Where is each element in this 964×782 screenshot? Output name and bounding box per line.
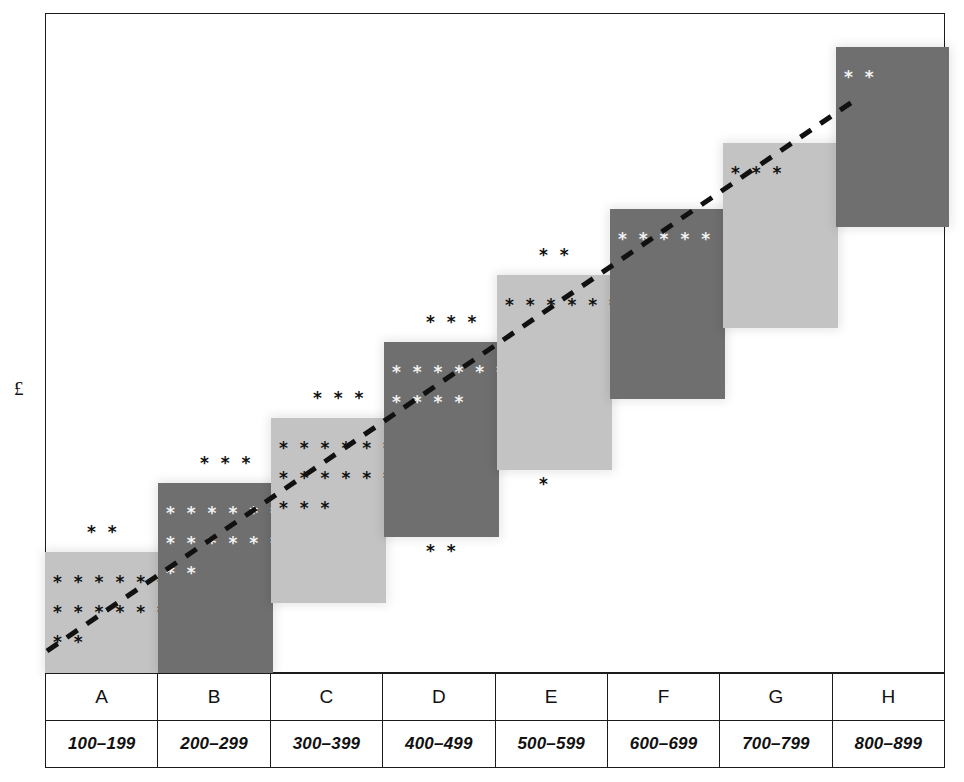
mark-row-below-d: * * xyxy=(426,543,459,560)
mark-row-d-2: * * * * xyxy=(392,394,466,411)
table-cell-letter-g: G xyxy=(720,674,832,721)
mark-row-a-3: * * xyxy=(53,634,86,651)
table-row-letters: ABCDEFGH xyxy=(46,674,945,721)
mark-row-g-1: * * * xyxy=(731,165,785,182)
table-cell-letter-d: D xyxy=(383,674,495,721)
table-cell-letter-c: C xyxy=(270,674,382,721)
table-cell-range-200-299: 200–299 xyxy=(158,721,270,768)
mark-row-above-c: * * * xyxy=(313,390,367,407)
table-cell-range-300-399: 300–399 xyxy=(270,721,382,768)
table-cell-range-100-199: 100–199 xyxy=(46,721,158,768)
table-row-ranges: 100–199200–299300–399400–499500–599600–6… xyxy=(46,721,945,768)
mark-row-above-e: * * xyxy=(539,247,572,264)
table-cell-range-700-799: 700–799 xyxy=(720,721,832,768)
mark-row-below-e: * xyxy=(539,476,551,493)
table-cell-range-400-499: 400–499 xyxy=(383,721,495,768)
table-cell-letter-e: E xyxy=(495,674,607,721)
table-cell-range-600-699: 600–699 xyxy=(607,721,719,768)
chart-canvas: £ * ** * * * * * * * * ** * * * * * * * … xyxy=(0,0,964,782)
category-table: ABCDEFGH 100–199200–299300–399400–499500… xyxy=(45,673,945,768)
mark-row-c-3: * * * xyxy=(279,500,333,517)
mark-row-f-1: * * * * * xyxy=(618,231,713,248)
table-cell-range-800-899: 800–899 xyxy=(832,721,944,768)
mark-row-b-3: * * xyxy=(166,565,199,582)
mark-row-above-d: * * * xyxy=(426,314,480,331)
table-cell-letter-a: A xyxy=(46,674,158,721)
table-cell-range-500-599: 500–599 xyxy=(495,721,607,768)
mark-row-above-b: * * * xyxy=(200,455,254,472)
table-cell-letter-f: F xyxy=(607,674,719,721)
mark-row-above-a: * * xyxy=(87,524,120,541)
mark-row-h-1: * * xyxy=(844,69,877,86)
y-axis-label: £ xyxy=(14,378,24,400)
table-cell-letter-b: B xyxy=(158,674,270,721)
table-cell-letter-h: H xyxy=(832,674,944,721)
staircase-blocks-layer: * ** * * * * * * * * ** * * * * * * * * … xyxy=(45,13,945,673)
